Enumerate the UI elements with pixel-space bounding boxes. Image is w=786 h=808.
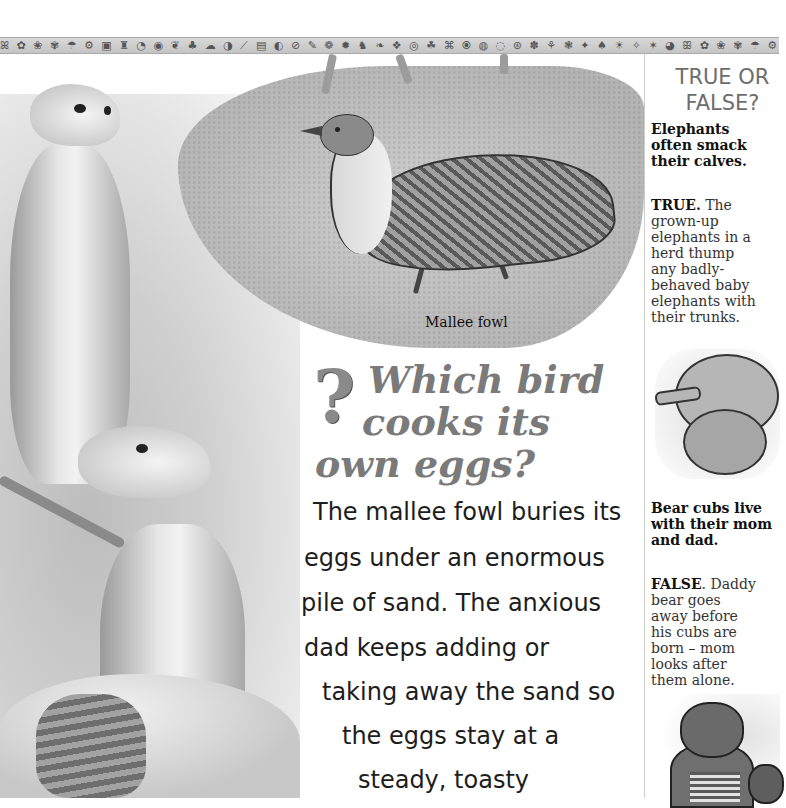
bears-illustration <box>660 694 780 798</box>
question-heading-line-2: cooks its <box>362 402 550 442</box>
mallee-fowl-head <box>320 114 374 156</box>
meerkat-eye-icon <box>104 106 111 115</box>
question-mark-icon: ? <box>313 361 355 433</box>
body-text-line: the eggs stay at a <box>342 722 559 750</box>
fact-answer: TRUE. The grown-up elephants in a herd t… <box>651 197 786 325</box>
tree-illustration <box>500 54 508 74</box>
verdict-label: TRUE. <box>651 197 701 213</box>
verdict-label: FALSE <box>651 576 702 592</box>
fact-answer: FALSE. Daddy bear goes away before his c… <box>651 576 786 688</box>
bird-eye-icon <box>335 127 340 132</box>
question-heading-line-1: Which bird <box>368 360 604 400</box>
sidebar-title-line-1: TRUE OR <box>665 64 780 90</box>
sidebar-title-line-2: FALSE? <box>665 90 780 116</box>
question-heading-line-3: own eggs? <box>315 444 535 484</box>
body-text-line: steady, toasty <box>358 766 529 794</box>
bear-cub <box>748 764 784 804</box>
body-text-line: taking away the sand so <box>322 678 615 706</box>
fact-question: Bear cubs live with their mom and dad. <box>651 500 786 548</box>
body-text-line: dad keeps adding or <box>304 634 549 662</box>
baby-elephant <box>683 409 767 475</box>
meerkat-eye-icon <box>74 104 86 113</box>
body-text-line: eggs under an enormous <box>304 544 605 572</box>
baby-meerkat-illustration <box>36 694 146 798</box>
illustration-caption: Mallee fowl <box>425 314 508 330</box>
true-or-false-sidebar: TRUE OR FALSE? Elephants often smack the… <box>644 54 780 798</box>
meerkat-eye-icon <box>136 444 148 453</box>
fact-question: Elephants often smack their calves. <box>651 121 786 169</box>
mallee-fowl-beak <box>300 126 322 136</box>
decorative-icon-strip: ꕤ ✿ ❀ ✾ ☂ ⚙ ▣ ♜ ◔ ◉ ❦ ♣ ☁ ◑ ⟋ ▤ ◐ ⊘ ✎ ❁ … <box>0 37 779 54</box>
body-text-line: pile of sand. The anxious <box>301 589 601 617</box>
main-spread: Mallee fowl ? Which bird cooks its own e… <box>0 54 644 798</box>
body-text-line: The mallee fowl buries its <box>313 498 621 526</box>
mother-bear-head <box>680 702 744 758</box>
elephants-illustration <box>655 349 780 479</box>
checkered-apron <box>690 772 740 802</box>
